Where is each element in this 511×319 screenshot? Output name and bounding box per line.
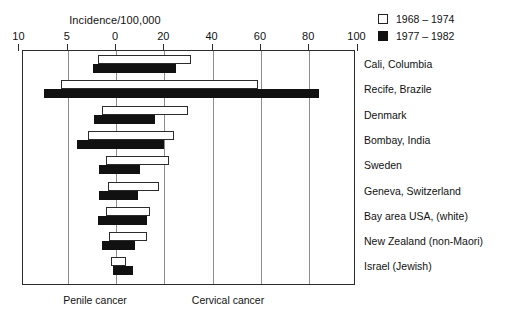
axis-title: Incidence/100,000 [69,14,161,26]
bar-1977-1982 [94,115,155,124]
category-label: Sweden [364,159,402,171]
category-label: Israel (Jewish) [364,260,432,272]
bar-1977-1982 [98,216,148,225]
caption-cervical: Cervical cancer [192,294,264,306]
gridline [261,51,262,284]
bar-1968-1974 [61,80,259,89]
bar-1968-1974 [88,131,174,140]
tick-label: 10 [12,30,24,42]
gridline [309,51,310,284]
bar-1977-1982 [99,191,138,200]
legend-swatch-open-icon [378,14,388,24]
legend: 1968 – 1974 1977 – 1982 [378,10,454,44]
bar-1977-1982 [93,64,177,73]
tick-label: 20 [157,30,169,42]
category-label: Cali, Columbia [364,58,432,70]
tick-mark [357,44,358,51]
caption-penile: Penile cancer [63,294,127,306]
bar-1977-1982 [99,165,141,174]
legend-swatch-filled-icon [378,31,388,41]
tick-mark [18,44,19,51]
tick-label: 0 [112,30,118,42]
bar-1977-1982 [113,266,133,275]
tick-label: 5 [64,30,70,42]
bar-1968-1974 [102,106,188,115]
category-label: Bay area USA, (white) [364,210,468,222]
bar-1968-1974 [106,207,149,216]
tick-label: 80 [302,30,314,42]
legend-label: 1968 – 1974 [396,13,454,25]
category-label: Denmark [364,109,407,121]
legend-item: 1968 – 1974 [378,10,454,27]
tick-label: 40 [205,30,217,42]
category-label: New Zealand (non-Maori) [364,235,483,247]
legend-label: 1977 – 1982 [396,30,454,42]
tick-label: 100 [347,30,365,42]
bar-1968-1974 [106,156,169,165]
bar-1968-1974 [109,232,147,241]
bar-1977-1982 [102,241,135,250]
bar-1968-1974 [108,182,159,191]
legend-item: 1977 – 1982 [378,27,454,44]
tick-label: 60 [254,30,266,42]
bar-1968-1974 [111,257,125,266]
bar-1968-1974 [98,55,191,64]
category-label: Bombay, India [364,134,430,146]
plot-area [22,50,355,285]
chart-container: Incidence/100,000 105020406080100 1968 –… [0,0,511,319]
category-label: Recife, Brazile [364,83,432,95]
category-label: Geneva, Switzerland [364,185,461,197]
bar-1977-1982 [77,140,164,149]
bar-1977-1982 [44,89,319,98]
